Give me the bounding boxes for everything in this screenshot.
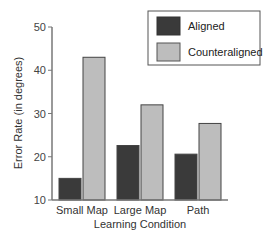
y-tick-label: 20 — [34, 151, 46, 163]
bar-chart: 1020304050 Small MapLarge MapPath Learni… — [0, 0, 278, 244]
bar-aligned-path — [175, 154, 197, 200]
bar-counteraligned-path — [199, 123, 221, 200]
bars-group — [59, 57, 221, 200]
legend-label-counteraligned: Counteraligned — [188, 46, 263, 58]
legend-swatch-aligned — [157, 17, 180, 35]
legend-swatch-counteraligned — [157, 43, 180, 61]
bar-aligned-large-map — [117, 146, 139, 200]
y-axis-title: Error Rate (in degrees) — [12, 57, 24, 170]
y-tick-label: 50 — [34, 21, 46, 33]
bar-aligned-small-map — [59, 178, 81, 200]
x-category-label: Small Map — [56, 204, 108, 216]
y-ticks: 1020304050 — [34, 21, 52, 206]
x-category-label: Large Map — [114, 204, 167, 216]
bar-counteraligned-small-map — [83, 57, 105, 200]
x-category-labels: Small MapLarge MapPath — [56, 204, 209, 216]
bar-counteraligned-large-map — [141, 105, 163, 200]
y-tick-label: 10 — [34, 194, 46, 206]
y-tick-label: 30 — [34, 108, 46, 120]
x-axis-title: Learning Condition — [94, 218, 186, 230]
legend-label-aligned: Aligned — [188, 20, 225, 32]
legend: Aligned Counteraligned — [148, 11, 263, 65]
x-category-label: Path — [187, 204, 210, 216]
y-tick-label: 40 — [34, 64, 46, 76]
